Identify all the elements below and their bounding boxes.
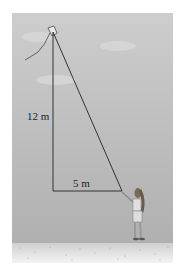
sky-background xyxy=(12,13,173,243)
kite-triangle-figure: 12 m 5 m xyxy=(0,0,179,265)
base-label: 5 m xyxy=(73,178,90,189)
height-label: 12 m xyxy=(27,111,49,122)
ground xyxy=(12,243,173,263)
figure-canvas xyxy=(0,0,179,265)
